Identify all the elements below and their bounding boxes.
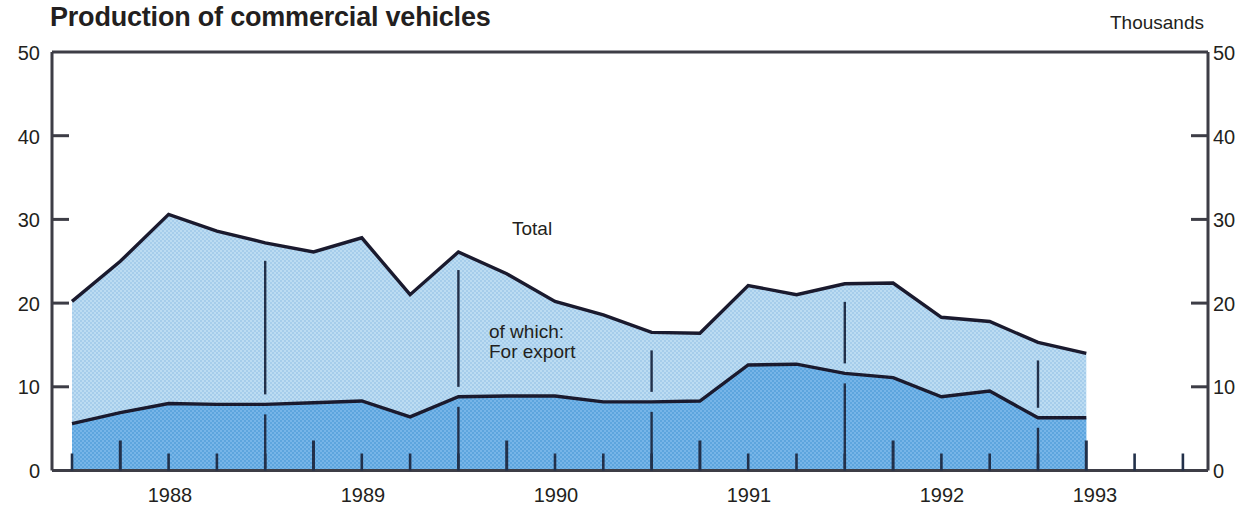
y-axis-left-tick-10: 10 (0, 376, 40, 399)
y-axis-left-tick-50: 50 (0, 42, 40, 65)
x-axis-label-1991: 1991 (699, 484, 799, 507)
x-axis-label-1990: 1990 (506, 484, 606, 507)
plot-area (0, 0, 1260, 521)
y-axis-left-tick-20: 20 (0, 293, 40, 316)
x-axis-label-1992: 1992 (892, 484, 992, 507)
annotation-export-line2: For export (489, 341, 576, 362)
x-axis-label-1988: 1988 (120, 484, 220, 507)
y-axis-right-tick-30: 30 (1213, 209, 1253, 232)
annotation-total: Total (512, 218, 552, 239)
x-axis-label-1989: 1989 (313, 484, 413, 507)
y-axis-right-tick-50: 50 (1213, 42, 1253, 65)
annotation-export-line1: of which: (489, 321, 564, 342)
y-axis-right-tick-40: 40 (1213, 126, 1253, 149)
y-axis-left-tick-30: 30 (0, 209, 40, 232)
chart-container: Production of commercial vehicles Thousa… (0, 0, 1260, 521)
y-axis-right-tick-0: 0 (1213, 460, 1253, 483)
y-axis-right-tick-20: 20 (1213, 293, 1253, 316)
y-axis-left-tick-0: 0 (0, 460, 40, 483)
y-axis-right-tick-10: 10 (1213, 376, 1253, 399)
y-axis-left-tick-40: 40 (0, 126, 40, 149)
x-axis-label-1993: 1993 (1045, 484, 1145, 507)
